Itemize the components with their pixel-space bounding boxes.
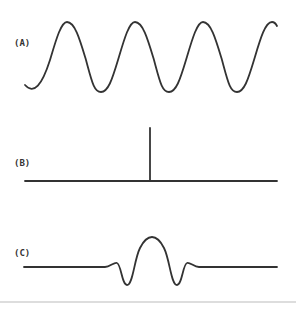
sine-wave-curve bbox=[25, 22, 277, 92]
wavelet-curve bbox=[24, 237, 277, 285]
panel-label-b: (B) bbox=[14, 158, 30, 168]
panel-label-a: (A) bbox=[14, 38, 30, 48]
waveform-diagram: (A) (B) (C) bbox=[0, 0, 296, 309]
panel-label-c: (C) bbox=[14, 248, 30, 258]
